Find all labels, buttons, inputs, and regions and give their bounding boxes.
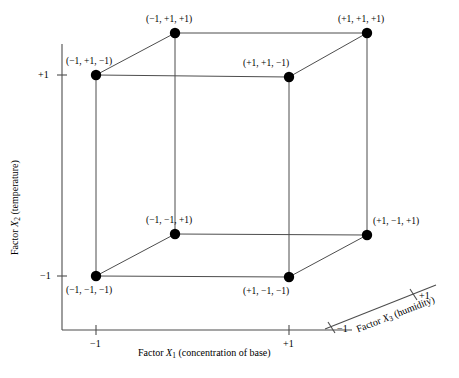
axis-ticks xyxy=(57,75,417,335)
edge-bottom-back-right xyxy=(289,235,367,277)
y-axis-title-symbol: X xyxy=(9,221,20,227)
vertex-label-m1-p1-p1: (−1, +1, +1) xyxy=(146,15,192,25)
y-axis-title-subscript: 2 xyxy=(13,217,22,221)
x-axis-title-suffix: (concentration of base) xyxy=(176,347,271,358)
x-tick-label-minus1: −1 xyxy=(90,339,101,349)
cube-vertices xyxy=(91,28,372,282)
edge-top-back-left xyxy=(96,33,175,75)
vertex-p1-p1-m1 xyxy=(284,72,294,82)
vertex-label-p1-p1-p1: (+1, +1, +1) xyxy=(338,15,384,25)
vertex-label-p1-m1-m1: (+1, −1, −1) xyxy=(243,287,289,297)
y-axis-title: Factor X2 (temperature) xyxy=(10,160,21,255)
edge-bottom-back xyxy=(175,234,367,235)
vertex-p1-m1-p1 xyxy=(362,230,372,240)
vertex-label-m1-m1-p1: (−1, −1, +1) xyxy=(146,216,192,226)
vertex-m1-m1-p1 xyxy=(170,229,180,239)
edge-bottom-front xyxy=(96,276,289,277)
vertex-m1-p1-m1 xyxy=(91,70,101,80)
edge-top-back-right xyxy=(289,33,367,77)
edge-bottom-back-left xyxy=(96,234,175,276)
y-axis-title-prefix: Factor xyxy=(9,227,20,255)
edge-top-front xyxy=(96,75,289,77)
vertex-p1-m1-m1 xyxy=(284,272,294,282)
y-tick-label-minus1: −1 xyxy=(40,271,51,281)
z-tick-label-minus1: −1 xyxy=(337,324,348,334)
vertex-label-m1-p1-m1: (−1, +1, −1) xyxy=(66,57,112,67)
vertex-m1-p1-p1 xyxy=(170,28,180,38)
vertex-label-p1-p1-m1: (+1, +1, −1) xyxy=(243,59,289,69)
x-axis-title: Factor X1 (concentration of base) xyxy=(138,348,271,359)
vertex-label-m1-m1-m1: (−1, −1, −1) xyxy=(66,286,112,296)
y-tick-label-plus1: +1 xyxy=(38,70,49,80)
vertex-p1-p1-p1 xyxy=(362,28,372,38)
x-tick-label-plus1: +1 xyxy=(283,339,294,349)
cube-edges xyxy=(96,33,367,277)
vertex-label-p1-m1-p1: (+1, −1, +1) xyxy=(373,217,419,227)
vertex-m1-m1-m1 xyxy=(91,271,101,281)
x-axis-title-prefix: Factor xyxy=(138,347,166,358)
y-axis-title-suffix: (temperature) xyxy=(9,160,20,217)
figure-canvas: (−1, +1, −1) (−1, +1, +1) (+1, +1, −1) (… xyxy=(0,0,459,378)
